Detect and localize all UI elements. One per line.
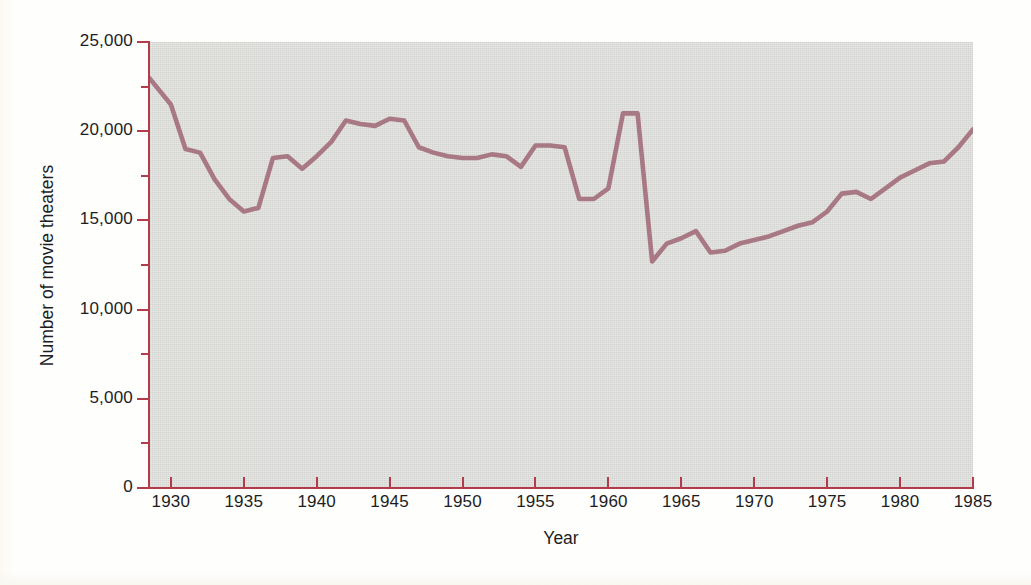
y-axis-title: Number of movie theaters <box>37 101 58 431</box>
x-axis-tick <box>389 477 391 488</box>
x-axis-tick <box>899 477 901 488</box>
y-axis-tick <box>137 130 150 132</box>
page-edge-shading-bottom <box>0 571 1031 585</box>
y-axis-minor-tick <box>141 264 150 266</box>
plot-area <box>149 42 973 488</box>
y-axis-tick <box>137 219 150 221</box>
y-axis-minor-tick <box>141 353 150 355</box>
y-axis-tick-label: 25,000 <box>33 31 133 51</box>
data-series-line <box>149 78 973 262</box>
x-axis-tick <box>680 477 682 488</box>
x-axis-tick <box>972 477 974 488</box>
x-axis-tick-label: 1935 <box>204 492 284 512</box>
x-axis-tick-label: 1945 <box>350 492 430 512</box>
x-axis-tick-label: 1955 <box>495 492 575 512</box>
x-axis-tick <box>170 477 172 488</box>
x-axis-tick <box>316 477 318 488</box>
x-axis-line <box>148 487 974 489</box>
x-axis-tick-label: 1980 <box>860 492 940 512</box>
y-axis-minor-tick <box>141 175 150 177</box>
y-axis-tick <box>137 487 150 489</box>
x-axis-tick-label: 1965 <box>641 492 721 512</box>
x-axis-tick <box>753 477 755 488</box>
x-axis-tick-label: 1970 <box>714 492 794 512</box>
x-axis-tick <box>826 477 828 488</box>
y-axis-tick <box>137 309 150 311</box>
x-axis-tick <box>462 477 464 488</box>
chart-figure: 05,00010,00015,00020,00025,000 193019351… <box>0 0 1031 585</box>
x-axis-tick-label: 1930 <box>131 492 211 512</box>
x-axis-tick <box>534 477 536 488</box>
x-axis-tick-label: 1985 <box>933 492 1013 512</box>
y-axis-tick <box>137 41 150 43</box>
line-chart-svg <box>149 42 973 488</box>
x-axis-tick-label: 1975 <box>787 492 867 512</box>
x-axis-tick <box>607 477 609 488</box>
y-axis-tick-label: 0 <box>33 477 133 497</box>
x-axis-tick-label: 1950 <box>423 492 503 512</box>
x-axis-tick-label: 1940 <box>277 492 357 512</box>
x-axis-tick <box>243 477 245 488</box>
y-axis-minor-tick <box>141 86 150 88</box>
page-edge-shading-left <box>0 0 16 585</box>
x-axis-tick-label: 1960 <box>568 492 648 512</box>
x-axis-title: Year <box>149 528 973 549</box>
y-axis-tick <box>137 398 150 400</box>
y-axis-minor-tick <box>141 442 150 444</box>
